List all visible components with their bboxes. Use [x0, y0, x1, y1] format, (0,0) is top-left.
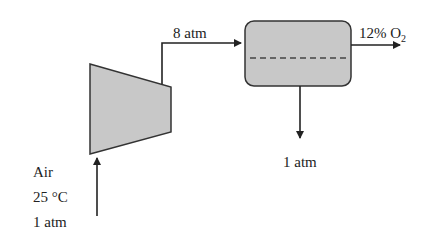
feed-label-line-1: Air [33, 164, 53, 180]
permeate-pressure-label: 1 atm [283, 154, 317, 170]
retentate-label: 12% O2 [359, 25, 406, 44]
retentate-label-subscript: 2 [401, 33, 406, 44]
compressor [90, 64, 171, 154]
compressed-pressure-label: 8 atm [173, 25, 207, 41]
feed-label-line-2: 25 °C [33, 189, 68, 205]
membrane-separator [245, 21, 351, 86]
compressed-stream-line [162, 43, 241, 84]
retentate-label-prefix: 12% O [359, 25, 401, 41]
feed-label-line-3: 1 atm [33, 214, 67, 230]
process-diagram: 8 atm 12% O2 1 atm Air 25 °C 1 atm [0, 0, 443, 246]
